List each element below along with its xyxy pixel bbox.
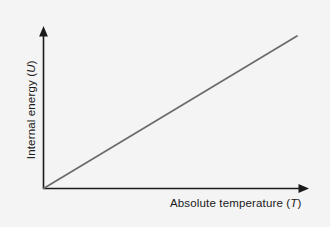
x-axis-label: Absolute temperature (T) (170, 198, 301, 210)
y-axis-label-symbol: U (25, 64, 37, 72)
figure-internal-energy-vs-temperature: Absolute temperature (T) Internal energy… (0, 0, 330, 227)
data-series-line (44, 36, 298, 189)
x-axis-label-prefix: Absolute temperature ( (170, 197, 290, 209)
y-axis-label-container: Internal energy (U) (0, 0, 60, 227)
y-axis-label: Internal energy (U) (26, 45, 38, 175)
y-axis-label-suffix: ) (25, 60, 37, 64)
y-axis-label-prefix: Internal energy ( (25, 73, 37, 159)
x-axis-arrow-right-icon (299, 184, 310, 193)
x-axis-label-suffix: ) (297, 197, 301, 209)
